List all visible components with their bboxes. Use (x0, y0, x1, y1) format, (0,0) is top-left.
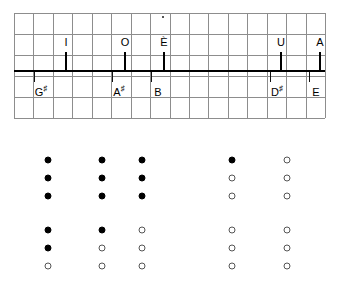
note-label: A♯ (113, 87, 124, 98)
grid-line-vertical (306, 13, 307, 118)
note-tick (270, 72, 271, 82)
grid-line-vertical (92, 13, 93, 118)
filled-dot (45, 245, 52, 252)
grid-line-horizontal (14, 55, 325, 56)
vowel-label: U (277, 37, 285, 48)
note-tick (309, 72, 310, 82)
stray-speck (162, 16, 164, 18)
axis-baseline (14, 70, 325, 72)
grid-line-vertical (325, 13, 326, 118)
vowel-tick (319, 52, 321, 71)
open-dot (229, 227, 236, 234)
grid-line-vertical (131, 13, 132, 118)
open-dot (139, 245, 146, 252)
grid-line-vertical (286, 13, 287, 118)
open-dot (45, 263, 52, 270)
note-tick (34, 72, 35, 82)
vowel-tick (124, 52, 126, 71)
vowel-tick (163, 52, 165, 71)
vowel-tick (280, 52, 282, 71)
sharp-sign-icon: ♯ (43, 84, 47, 93)
grid-line-horizontal (14, 76, 325, 77)
sharp-sign-icon: ♯ (279, 84, 283, 93)
grid-line-horizontal (14, 34, 325, 35)
grid-lines (14, 13, 325, 118)
grid-line-vertical (208, 13, 209, 118)
grid-line-vertical (267, 13, 268, 118)
note-label-text: E (312, 86, 319, 98)
note-label: D♯ (271, 87, 283, 98)
open-dot (284, 263, 291, 270)
grid-line-horizontal (14, 13, 325, 14)
open-dot (284, 245, 291, 252)
grid-line-vertical (228, 13, 229, 118)
note-label: E (312, 87, 319, 98)
grid-line-vertical (111, 13, 112, 118)
grid-line-vertical (33, 13, 34, 118)
vowel-label: È (160, 37, 167, 48)
filled-dot (45, 227, 52, 234)
grid-line-horizontal (14, 118, 325, 119)
open-dot (99, 263, 106, 270)
open-dot (139, 263, 146, 270)
note-label: B (154, 87, 161, 98)
vowel-label: I (64, 37, 67, 48)
grid-line-vertical (170, 13, 171, 118)
open-dot (284, 227, 291, 234)
vowel-formant-grid-chart: IOÈUA G♯A♯BD♯E (14, 13, 325, 118)
dot-matrix (0, 140, 339, 284)
grid-line-vertical (247, 13, 248, 118)
open-dot (99, 245, 106, 252)
open-dot (139, 227, 146, 234)
vowel-tick (65, 52, 67, 71)
open-dot (229, 245, 236, 252)
note-tick (151, 72, 152, 82)
note-label: G♯ (35, 87, 48, 98)
vowel-label: A (316, 37, 323, 48)
filled-dot (99, 227, 106, 234)
open-dot (229, 263, 236, 270)
vowel-label: O (121, 37, 130, 48)
note-label-text: G (35, 86, 44, 98)
grid-line-vertical (189, 13, 190, 118)
lower-block (0, 140, 339, 284)
grid-line-vertical (14, 13, 15, 118)
sharp-sign-icon: ♯ (121, 84, 125, 93)
grid-line-vertical (150, 13, 151, 118)
note-tick (112, 72, 113, 82)
note-label-text: D (271, 86, 279, 98)
note-label-text: B (154, 86, 161, 98)
grid-line-vertical (72, 13, 73, 118)
grid-line-vertical (53, 13, 54, 118)
